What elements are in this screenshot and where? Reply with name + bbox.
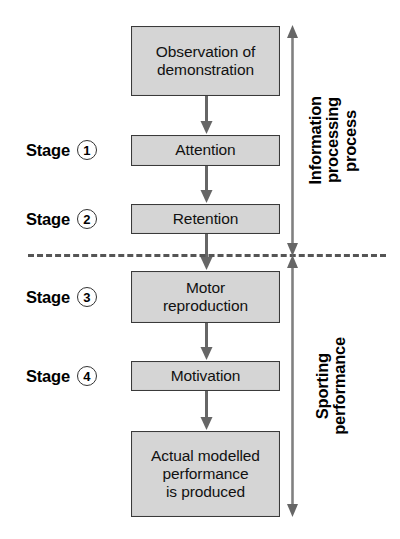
box-line: Attention xyxy=(172,141,238,159)
arrow-down-icon xyxy=(198,96,215,135)
box-line: performance xyxy=(148,465,263,483)
stage-number-badge: 4 xyxy=(77,366,97,386)
stage-word: Stage xyxy=(26,288,70,307)
bracket-label-line: performance xyxy=(331,337,348,435)
bracket-arrow-information-processing xyxy=(285,25,300,256)
box-line: Actual modelled xyxy=(148,447,263,465)
process-box-motor-reproduction[interactable]: Motor reproduction xyxy=(131,271,280,323)
stage-number-badge: 1 xyxy=(77,140,97,160)
box-line: demonstration xyxy=(153,61,258,79)
box-line: Motor xyxy=(160,279,251,297)
stage-word: Stage xyxy=(26,367,70,386)
stage-number-badge: 2 xyxy=(77,209,97,229)
stage-label-3: Stage 3 xyxy=(26,284,126,310)
arrow-down-icon xyxy=(198,234,215,271)
stage-label-4: Stage 4 xyxy=(26,363,126,389)
stage-label-2: Stage 2 xyxy=(26,206,126,232)
bracket-arrow-sporting-performance xyxy=(285,255,300,517)
stage-number-badge: 3 xyxy=(77,287,97,307)
bracket-label-sporting-performance: Sporting performance xyxy=(306,255,356,517)
bracket-label-line: processing xyxy=(324,97,341,183)
flow-diagram: Observation of demonstration Attention R… xyxy=(0,0,400,539)
box-line: is produced xyxy=(148,483,263,501)
process-box-actual-performance[interactable]: Actual modelled performance is produced xyxy=(131,431,280,517)
bracket-label-information-processing: Information processing process xyxy=(300,25,366,256)
box-line: Observation of xyxy=(153,43,258,61)
process-box-attention[interactable]: Attention xyxy=(131,135,280,166)
bracket-label-line: Sporting xyxy=(314,353,331,419)
box-line: reproduction xyxy=(160,297,251,315)
arrow-down-icon xyxy=(198,166,215,204)
arrow-down-icon xyxy=(198,391,215,431)
process-box-motivation[interactable]: Motivation xyxy=(131,361,280,391)
bracket-label-line: Information xyxy=(307,96,324,185)
stage-word: Stage xyxy=(26,141,70,160)
process-box-retention[interactable]: Retention xyxy=(131,204,280,234)
arrow-down-icon xyxy=(198,323,215,361)
bracket-label-line: process xyxy=(342,110,359,172)
process-box-observation[interactable]: Observation of demonstration xyxy=(131,26,280,96)
box-line: Retention xyxy=(170,210,241,228)
stage-word: Stage xyxy=(26,210,70,229)
stage-label-1: Stage 1 xyxy=(26,137,126,163)
box-line: Motivation xyxy=(168,367,244,385)
